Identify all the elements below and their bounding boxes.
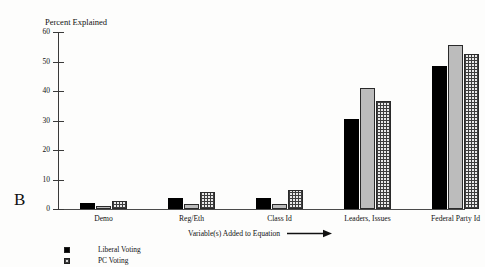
bar [272, 204, 287, 209]
y-tick-40 [53, 91, 64, 92]
bar-group [432, 32, 479, 209]
bar-group [80, 32, 127, 209]
bar [448, 45, 463, 209]
y-tick-label-10: 10 [30, 176, 50, 184]
bar [112, 201, 127, 209]
y-tick-20 [53, 150, 64, 151]
bar [184, 204, 199, 209]
y-tick-0 [53, 209, 64, 210]
x-axis-line [54, 209, 465, 210]
bar [200, 192, 215, 209]
bar [256, 198, 271, 209]
x-category-label: Reg/Eth [146, 214, 237, 223]
legend-label: Liberal Voting [98, 245, 141, 254]
y-tick-30 [53, 121, 64, 122]
y-tick-60 [53, 32, 64, 33]
y-tick-label-40: 40 [30, 87, 50, 95]
legend-label: PC Voting [98, 256, 128, 265]
legend-item: Liberal Voting [64, 245, 141, 254]
bar-group [256, 32, 303, 209]
y-tick-10 [53, 180, 64, 181]
plot-area: 0102030405060 DemoReg/EthClass IdLeaders… [58, 32, 465, 209]
x-category-label: Leaders, Issues [322, 214, 413, 223]
legend: Liberal VotingPC Voting [64, 245, 141, 267]
bar [432, 66, 447, 209]
legend-swatch [64, 258, 70, 264]
y-tick-50 [53, 62, 64, 63]
legend-swatch [64, 247, 70, 253]
y-tick-label-0: 0 [30, 205, 50, 213]
x-axis-caption: Variable(s) Added to Equation [188, 229, 280, 238]
legend-item: PC Voting [64, 256, 141, 265]
x-category-label: Class Id [234, 214, 325, 223]
bar [464, 54, 479, 209]
right-arrow-icon [287, 229, 333, 238]
y-axis-title: Percent Explained [45, 17, 107, 27]
x-category-label: Federal Party Id [410, 214, 485, 223]
y-tick-label-50: 50 [30, 58, 50, 66]
bar [80, 203, 95, 209]
y-tick-label-30: 30 [30, 117, 50, 125]
y-tick-label-20: 20 [30, 146, 50, 154]
bar [96, 206, 111, 209]
bar-group [344, 32, 391, 209]
x-category-label: Demo [58, 214, 149, 223]
bar [288, 190, 303, 209]
bar [360, 88, 375, 209]
bar [376, 101, 391, 209]
bar [344, 119, 359, 209]
panel-letter: B [14, 190, 26, 210]
bar-group [168, 32, 215, 209]
bar [168, 198, 183, 209]
x-axis-caption-group: Variable(s) Added to Equation [188, 229, 333, 238]
y-tick-label-60: 60 [30, 28, 50, 36]
